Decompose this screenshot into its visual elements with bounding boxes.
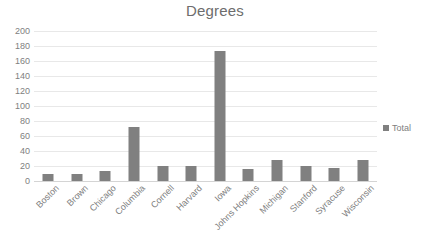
y-axis: 200180160140120100806040200 [0,31,30,181]
bar-slot [148,31,177,181]
bar-boston[interactable] [43,174,54,181]
bar-slot [291,31,320,181]
y-tick-label-120: 120 [0,87,30,96]
bar-harvard[interactable] [186,166,197,181]
bar-slot [91,31,120,181]
bar-chicago[interactable] [100,171,111,182]
y-tick-label-140: 140 [0,72,30,81]
y-tick-label-200: 200 [0,27,30,36]
bar-michigan[interactable] [271,160,282,181]
bar-slot [263,31,292,181]
legend-label-total: Total [392,123,411,133]
bar-slot [320,31,349,181]
chart-title: Degrees [0,2,430,19]
bar-slot [120,31,149,181]
gridline-0 [34,181,377,182]
bar-slot [206,31,235,181]
x-axis: BostonBrownChicagoColumbiaCornellHarvard… [34,183,377,251]
y-tick-label-100: 100 [0,102,30,111]
bar-iowa[interactable] [214,51,225,181]
chart-legend: Total [383,123,411,133]
bar-johns-hopkins[interactable] [243,169,254,181]
y-tick-label-40: 40 [0,147,30,156]
y-tick-label-60: 60 [0,132,30,141]
y-tick-label-180: 180 [0,42,30,51]
bar-series-total [34,31,377,181]
y-tick-label-20: 20 [0,162,30,171]
bar-slot [348,31,377,181]
bar-cornell[interactable] [157,166,168,181]
bar-slot [234,31,263,181]
chart-container: Degrees 200180160140120100806040200 Bost… [0,0,430,251]
y-tick-label-80: 80 [0,117,30,126]
bar-slot [63,31,92,181]
bar-syracuse[interactable] [329,168,340,182]
y-tick-label-0: 0 [0,177,30,186]
y-tick-label-160: 160 [0,57,30,66]
bar-slot [34,31,63,181]
bar-columbia[interactable] [129,127,140,181]
legend-swatch-total [383,125,389,131]
bar-stanford[interactable] [300,166,311,181]
bar-brown[interactable] [71,174,82,182]
bar-wisconsin[interactable] [357,160,368,181]
bar-slot [177,31,206,181]
